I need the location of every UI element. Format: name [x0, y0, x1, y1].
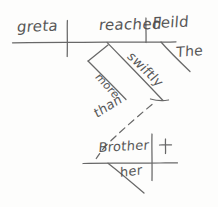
word-subject-greta: greta — [16, 16, 59, 36]
word-article-the: The — [176, 42, 203, 60]
main-baseline-line — [13, 42, 177, 43]
comparative-hanger-line — [88, 45, 108, 61]
adverb-slant-end-tick — [151, 99, 169, 101]
sentence-diagram-canvas: greta reached Feild The swiftly more tha… — [0, 0, 218, 207]
word-elliptical-subject-brother: Brother — [98, 137, 150, 155]
word-direct-object-feild: Feild — [152, 13, 190, 32]
word-possessive-her: her — [120, 162, 142, 180]
